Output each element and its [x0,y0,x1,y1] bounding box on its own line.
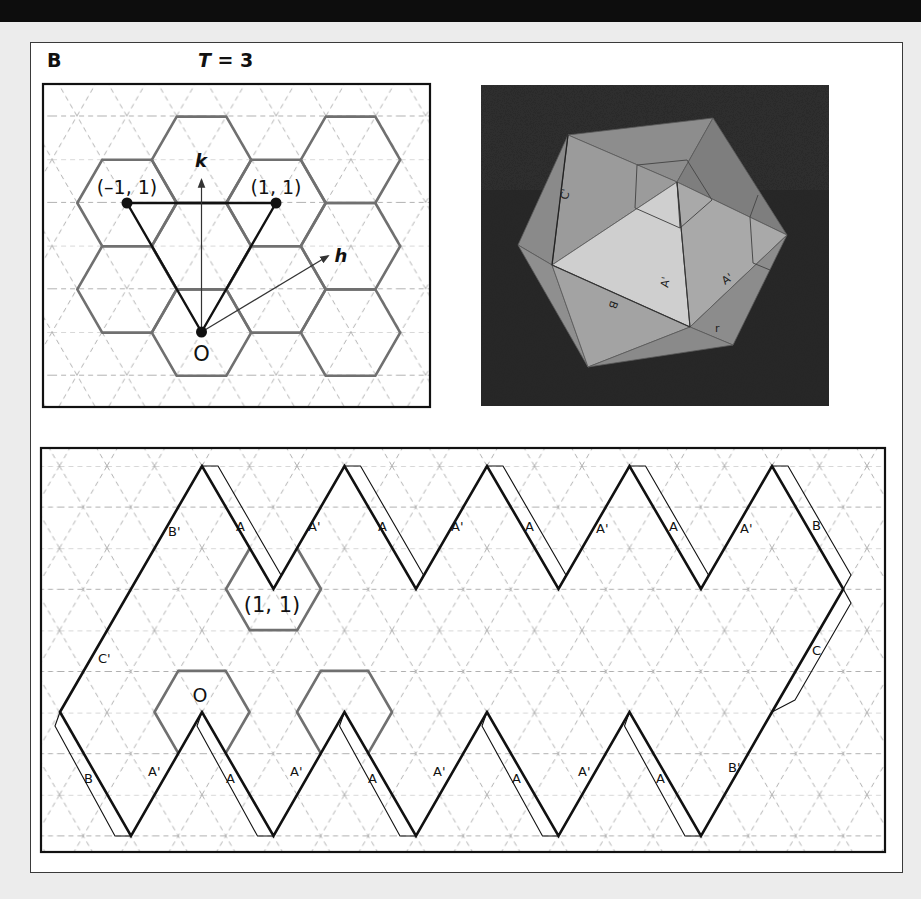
label-1-1: (1, 1) [250,176,301,198]
lattice-point-1-1 [271,198,282,209]
net-label-1-1: (1, 1) [244,593,300,617]
edge-label: A [669,519,678,534]
edge-label: A' [148,764,160,779]
edge-label: A' [596,521,608,536]
edge-label: A [236,519,245,534]
photo-face-label: r [715,322,720,335]
edge-label: A [226,771,235,786]
label-neg1-1: (–1, 1) [97,176,158,198]
net-label-origin: O [193,684,208,706]
edge-label: B' [168,524,181,539]
photo-face-label: A' [658,276,673,289]
photo-face-label: C' [558,188,573,201]
edge-label: B [812,518,821,533]
edge-label: A' [578,764,590,779]
label-k-vector: k [195,150,208,171]
edge-label: A [378,519,387,534]
lattice-point-neg1-1 [122,198,133,209]
edge-label: B [84,771,93,786]
edge-label: A' [290,764,302,779]
icosahedron-photo: C' A' A' B r [481,85,829,406]
label-origin: O [193,342,210,366]
edge-label: A [525,519,534,534]
lattice-panel: (–1, 1) (1, 1) O k h [43,84,430,407]
edge-label: B' [728,760,741,775]
edge-label: A [656,771,665,786]
edge-label: A [368,771,377,786]
lattice-point-origin [196,327,207,338]
label-h-vector: h [335,245,348,266]
figure-artwork: (–1, 1) (1, 1) O k h [0,0,921,899]
edge-label: A' [433,764,445,779]
net-panel: (1, 1) O B' C' A A' A A' A A' A A' B C B… [41,448,885,852]
edge-label: A' [451,519,463,534]
edge-label: C [812,643,821,658]
edge-label: A' [308,519,320,534]
edge-label: A' [740,521,752,536]
edge-label: A [512,771,521,786]
edge-label: C' [98,651,111,666]
